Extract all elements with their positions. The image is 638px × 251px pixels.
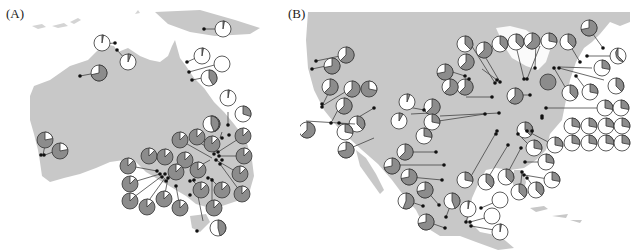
pie-chart bbox=[614, 135, 630, 151]
pie-chart bbox=[206, 200, 222, 216]
pie-chart bbox=[141, 148, 157, 164]
pie-chart bbox=[478, 174, 494, 190]
pie-chart bbox=[94, 35, 110, 51]
pie-chart bbox=[397, 144, 413, 160]
pie-chart bbox=[416, 128, 432, 144]
pie-chart bbox=[324, 58, 340, 74]
pie-chart bbox=[220, 90, 236, 106]
pie-chart bbox=[156, 191, 172, 207]
pie-chart bbox=[457, 172, 473, 188]
pie-chart bbox=[401, 169, 417, 185]
pie-chart bbox=[460, 201, 476, 217]
pie-chart bbox=[560, 34, 576, 50]
pie-chart bbox=[581, 20, 597, 36]
pie-chart bbox=[300, 122, 315, 138]
pie-chart bbox=[234, 186, 250, 202]
pie-chart bbox=[492, 36, 508, 52]
pie-chart bbox=[417, 182, 433, 198]
pie-chart bbox=[444, 193, 460, 209]
pie-chart bbox=[52, 143, 68, 159]
pie-chart bbox=[614, 118, 630, 134]
pie-chart bbox=[193, 182, 209, 198]
pie-chart bbox=[608, 78, 624, 94]
pie-chart bbox=[210, 220, 226, 236]
pie-chart bbox=[190, 162, 206, 178]
panel-b-north-america-map: (B) bbox=[300, 0, 638, 251]
pie-chart bbox=[598, 118, 614, 134]
pie-chart bbox=[544, 172, 560, 188]
pie-chart bbox=[201, 70, 217, 86]
pie-chart bbox=[344, 81, 360, 97]
pie-chart bbox=[398, 193, 414, 209]
pie-chart bbox=[322, 79, 338, 95]
pie-chart bbox=[338, 47, 354, 63]
pie-chart bbox=[458, 54, 474, 70]
pie-chart bbox=[507, 88, 523, 104]
pie-chart bbox=[457, 79, 473, 95]
pie-chart bbox=[437, 64, 453, 80]
pie-chart bbox=[194, 48, 210, 64]
pie-chart bbox=[172, 200, 188, 216]
australia-map-svg bbox=[0, 0, 300, 251]
tasmania-landmass bbox=[190, 214, 210, 232]
pie-chart bbox=[594, 60, 610, 76]
pie-chart bbox=[235, 128, 251, 144]
pie-chart bbox=[528, 182, 544, 198]
pie-chart bbox=[492, 224, 508, 240]
pie-chart bbox=[564, 118, 580, 134]
pie-chart bbox=[203, 116, 219, 132]
pie-chart bbox=[562, 85, 578, 101]
pie-chart bbox=[157, 149, 173, 165]
pie-chart bbox=[215, 21, 231, 37]
pie-chart bbox=[424, 99, 440, 115]
new-guinea-landmass bbox=[155, 10, 260, 36]
pie-chart bbox=[120, 54, 136, 70]
pie-chart bbox=[597, 100, 613, 116]
pie-chart bbox=[511, 184, 527, 200]
pie-chart bbox=[204, 136, 220, 152]
pie-chart bbox=[336, 98, 352, 114]
pie-chart bbox=[610, 48, 626, 64]
pie-chart bbox=[236, 148, 252, 164]
east-pie-grid bbox=[564, 118, 630, 151]
pie-chart bbox=[424, 114, 440, 130]
pie-chart bbox=[189, 129, 205, 145]
pie-chart bbox=[508, 34, 524, 50]
pie-chart bbox=[547, 137, 563, 153]
pie-chart bbox=[538, 154, 554, 170]
pie-chart bbox=[214, 56, 230, 72]
pie-chart bbox=[541, 33, 557, 49]
panel-a-australia-map: (A) bbox=[0, 0, 300, 251]
pie-chart bbox=[338, 142, 354, 158]
pie-chart bbox=[91, 65, 107, 81]
north-america-map-svg bbox=[300, 0, 638, 251]
pie-chart bbox=[122, 193, 138, 209]
pie-chart bbox=[361, 81, 377, 97]
pie-chart bbox=[524, 33, 540, 49]
pie-chart bbox=[172, 132, 188, 148]
pie-chart bbox=[337, 124, 353, 140]
pie-chart bbox=[492, 192, 508, 208]
pie-chart bbox=[120, 158, 136, 174]
pie-chart bbox=[498, 169, 514, 185]
pie-chart bbox=[476, 42, 492, 58]
pie-chart bbox=[391, 113, 407, 129]
pie-chart bbox=[581, 118, 597, 134]
pie-chart bbox=[540, 74, 556, 90]
pie-chart bbox=[442, 79, 458, 95]
pie-chart bbox=[235, 106, 251, 122]
pie-chart bbox=[37, 132, 53, 148]
pie-chart bbox=[581, 135, 597, 151]
pie-chart bbox=[122, 176, 138, 192]
pie-chart bbox=[598, 135, 614, 151]
pie-chart bbox=[564, 135, 580, 151]
pie-chart bbox=[214, 182, 230, 198]
pie-chart bbox=[418, 214, 434, 230]
pie-chart bbox=[526, 140, 542, 156]
pie-chart bbox=[384, 158, 400, 174]
pie-chart bbox=[613, 100, 629, 116]
pie-chart bbox=[168, 164, 184, 180]
pie-chart bbox=[457, 36, 473, 52]
pie-chart bbox=[399, 94, 415, 110]
pie-chart bbox=[139, 199, 155, 215]
